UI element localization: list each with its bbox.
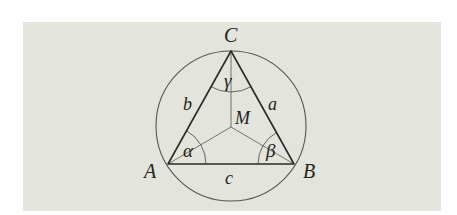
angle-label-alpha: α xyxy=(183,140,194,161)
vertex-label-c: C xyxy=(224,24,238,46)
triangle-circumcircle-diagram: C A B b a c M γ α β xyxy=(0,0,457,215)
side-label-c: c xyxy=(225,168,233,188)
vertex-label-b: B xyxy=(303,160,315,182)
vertex-label-a: A xyxy=(142,160,157,182)
center-label-m: M xyxy=(234,108,251,128)
side-label-a: a xyxy=(268,94,277,114)
angle-label-beta: β xyxy=(265,140,276,161)
angle-label-gamma: γ xyxy=(224,70,232,91)
side-label-b: b xyxy=(183,94,192,114)
